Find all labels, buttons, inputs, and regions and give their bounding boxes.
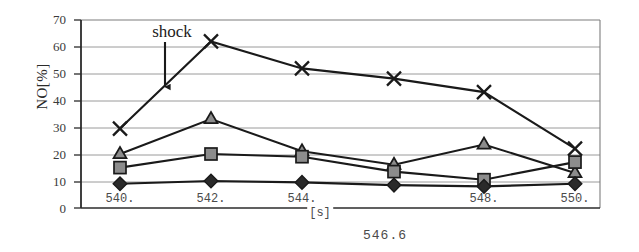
x-tick-label-544: 544. (288, 192, 317, 206)
marker-cross-group (113, 34, 582, 155)
x-tick-label-548: 548. (470, 192, 499, 206)
marker-triangle-group (114, 112, 582, 177)
series-cross (113, 34, 582, 155)
x-axis-title: [s] (307, 206, 333, 220)
y-tick-label-50: 50 (40, 66, 66, 82)
y-tick-label-30: 30 (40, 120, 66, 136)
x-tick-label-540: 540. (106, 192, 135, 206)
y-tick-label-20: 20 (40, 147, 66, 163)
y-tick-label-60: 60 (40, 39, 66, 55)
footnote-546-6: 546.6 (363, 228, 407, 243)
y-tick-label-40: 40 (40, 93, 66, 109)
series-triangle (114, 112, 582, 177)
series-diamond (113, 174, 582, 193)
y-tick-label-10: 10 (40, 174, 66, 190)
x-tick-label-542: 542. (197, 192, 226, 206)
y-tick-label-0: 0 (40, 201, 66, 217)
chart-figure: NO[%] 70 60 50 40 30 20 10 0 540. 542. 5… (0, 0, 639, 252)
x-tick-label-550: 550. (561, 192, 590, 206)
shock-annotation-label: shock (152, 22, 192, 42)
y-tick-label-70: 70 (40, 12, 66, 28)
